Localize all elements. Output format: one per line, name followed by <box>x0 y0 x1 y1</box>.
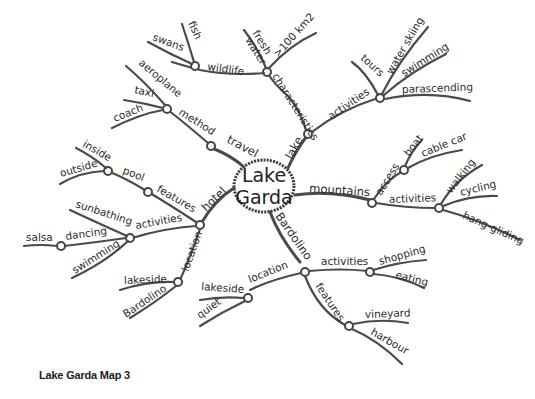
map-caption: Lake Garda Map 3 <box>39 369 130 381</box>
label-fish: fish <box>186 19 205 41</box>
label-access: access <box>373 161 402 197</box>
branch-mountains: mountains access boat cable car activiti… <box>295 129 526 246</box>
label-swans: swans <box>151 31 186 53</box>
label-lake: lake <box>282 134 305 161</box>
label-mountains: mountains <box>309 181 371 199</box>
label-tours: tours <box>359 52 387 79</box>
label-salsa: salsa <box>26 231 53 243</box>
branch-hotel: hotel features pool inside outside activ… <box>24 137 234 319</box>
label-wildlife: wildlife <box>207 60 245 77</box>
label-pool: pool <box>121 164 146 184</box>
mind-map: Lake Garda lake characteristics fresh wa… <box>0 0 535 399</box>
label-hang-gliding: hang-gliding <box>461 209 526 247</box>
branch-bardolino: Bardolino location lakeside quiet activi… <box>194 210 430 364</box>
label-hotel: hotel <box>198 184 229 214</box>
label-bardolino-lakeside: lakeside <box>201 280 245 295</box>
branch-lake: lake characteristics fresh water >100 km… <box>148 10 473 168</box>
label-100km2: >100 km2 <box>271 10 317 59</box>
label-bardolino-location: location <box>246 258 289 285</box>
center-label-line2: Garda <box>235 186 293 208</box>
label-eating: eating <box>395 268 430 288</box>
label-hotel-location: location <box>179 229 205 272</box>
label-mountain-activities: activities <box>389 191 437 205</box>
label-taxi: taxi <box>134 83 156 99</box>
label-dancing: dancing <box>65 224 108 242</box>
label-sunbathing: sunbathing <box>74 197 134 227</box>
label-bardolino-activities: activities <box>321 255 368 267</box>
label-parascending: parascending <box>402 81 474 95</box>
center-label-line1: Lake <box>242 164 286 186</box>
label-vineyard: vineyard <box>365 306 411 320</box>
